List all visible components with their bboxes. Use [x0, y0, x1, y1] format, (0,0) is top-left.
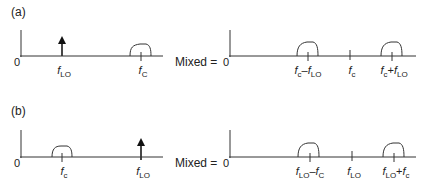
panel-b-sum-label: fLO+fc — [382, 166, 409, 180]
panel-b-input-origin: 0 — [14, 158, 20, 169]
panel-b-carrier-label: fc — [60, 166, 67, 180]
panel-a-sum-label: fc+fLO — [380, 65, 407, 79]
panel-b-difference-label: fLO–fC — [296, 166, 325, 180]
panel-b-label: (b) — [11, 105, 26, 117]
panel-a-difference-band — [297, 42, 318, 61]
panel-a-sum-band — [381, 42, 402, 61]
panel-b-mixed-label: Mixed = — [175, 157, 217, 169]
panel-a-mixed-label: Mixed = — [175, 56, 217, 68]
panel-b-output-axes — [229, 130, 416, 158]
panel-a-difference-label: fc–fLO — [295, 65, 322, 79]
panel-a-carrier-label: fC — [139, 65, 148, 79]
panel-a-carrier-output-label: fc — [348, 65, 355, 79]
panel-a-output-axes — [229, 30, 416, 57]
panel-b-lo-label: fLO — [136, 166, 150, 180]
panel-a-lo-impulse-arrow — [58, 36, 66, 56]
panel-a-carrier-band — [130, 44, 151, 61]
panel-b-lo-output-label: fLO — [347, 166, 361, 180]
panel-a-output-origin: 0 — [223, 57, 229, 68]
panel-a-lo-label: fLO — [57, 65, 71, 79]
panel-b-output-origin: 0 — [223, 158, 229, 169]
panel-b-sum-band — [383, 143, 404, 162]
panel-a-label: (a) — [11, 6, 26, 18]
panel-b-difference-band — [298, 143, 319, 162]
panel-a-input-origin: 0 — [14, 57, 20, 68]
panel-b-carrier-band — [52, 146, 72, 162]
